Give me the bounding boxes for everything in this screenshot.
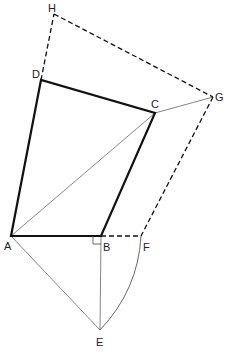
quadrilateral-abcd	[11, 80, 155, 236]
segment-be	[100, 236, 101, 330]
label-e: E	[96, 336, 103, 348]
segment-ae	[11, 236, 100, 330]
segment-ac	[11, 113, 155, 236]
right-angle-marker	[93, 236, 101, 244]
segment-dh	[41, 14, 54, 80]
label-d: D	[32, 68, 40, 80]
segment-cg	[155, 97, 213, 113]
label-c: C	[151, 98, 159, 110]
label-b: B	[103, 241, 110, 253]
segment-hg	[54, 14, 213, 97]
label-f: F	[143, 241, 150, 253]
label-g: G	[215, 91, 224, 103]
label-a: A	[4, 240, 12, 252]
label-h: H	[48, 2, 56, 14]
geometry-diagram: A B C D E F G H	[0, 0, 225, 356]
